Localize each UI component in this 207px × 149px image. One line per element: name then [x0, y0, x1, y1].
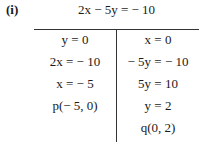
right-step-1: x = 0	[117, 32, 199, 48]
left-step-1: y = 0	[34, 32, 116, 48]
equation-heading: 2x − 5y = − 10	[34, 2, 199, 18]
right-step-4: y = 2	[117, 98, 199, 114]
right-step-3: 5y = 10	[117, 76, 199, 92]
part-label: (i)	[6, 2, 18, 18]
left-point-p: p(− 5, 0)	[34, 98, 116, 114]
left-step-3: x = − 5	[34, 76, 116, 92]
right-point-q: q(0, 2)	[117, 120, 199, 136]
right-step-2: − 5y = − 10	[117, 54, 199, 70]
left-step-2: 2x = − 10	[34, 54, 116, 70]
